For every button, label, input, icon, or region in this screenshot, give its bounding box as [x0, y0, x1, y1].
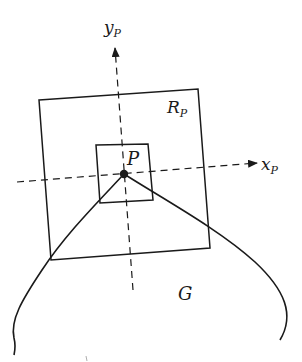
outer-rect-label: RP — [166, 97, 188, 120]
y-axis-label: yP — [103, 17, 122, 40]
boundary-curve-right — [124, 174, 287, 340]
x-axis-label: xP — [261, 154, 279, 177]
boundary-curve-left — [13, 174, 124, 355]
point-label: P — [126, 148, 140, 169]
y-axis — [115, 48, 133, 290]
point-p-marker — [120, 170, 128, 178]
stray-mark — [86, 356, 87, 361]
diagram-canvas: yP xP RP P G — [0, 0, 302, 362]
region-label: G — [178, 283, 192, 304]
